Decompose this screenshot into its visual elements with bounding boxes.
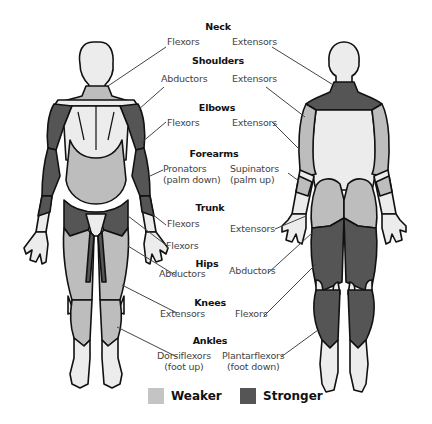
back-figure	[282, 42, 406, 392]
label-knees-front: Extensors	[160, 309, 205, 320]
heading-neck: Neck	[205, 21, 231, 32]
front-foot-right	[102, 338, 122, 388]
front-upperarm-right	[132, 148, 150, 196]
label-forearms-front: Pronators (palm down)	[163, 164, 221, 185]
back-thigh-right	[344, 218, 377, 290]
front-hand-left	[24, 232, 48, 264]
legend-weaker: Weaker	[148, 388, 222, 404]
label-elbows-front: Flexors	[167, 118, 199, 129]
heading-ankles: Ankles	[193, 335, 228, 346]
legend-stronger: Stronger	[240, 388, 323, 404]
back-hand-right	[382, 214, 406, 244]
heading-forearms: Forearms	[190, 148, 239, 159]
back-calf-right	[348, 290, 374, 348]
front-upperarm-left	[42, 148, 60, 196]
label-hips-back: Abductors	[229, 266, 275, 277]
legend-weaker-label: Weaker	[171, 389, 222, 403]
muscle-strength-diagram: Neck Flexors Extensors Shoulders Abducto…	[0, 0, 432, 424]
back-upperarm-right	[372, 104, 389, 176]
back-foot-left	[320, 340, 338, 392]
label-neck-back: Extensors	[232, 37, 277, 48]
label-hips-front: Abductors	[159, 269, 205, 280]
label-forearms-back: Supinators (palm up)	[230, 164, 279, 185]
weaker-swatch	[148, 388, 164, 404]
back-thigh-left	[311, 218, 344, 290]
front-foot-left	[70, 338, 90, 388]
front-figure	[24, 42, 168, 388]
stronger-swatch	[240, 388, 256, 404]
label-elbows-back: Extensors	[232, 118, 277, 129]
back-head	[329, 42, 359, 84]
back-calf-left	[314, 290, 340, 348]
label-ankles-front: Dorsiflexors (foot up)	[157, 351, 211, 372]
label-ankles-back: Plantarflexors (foot down)	[222, 351, 285, 372]
heading-shoulders: Shoulders	[192, 55, 244, 66]
label-shoulders-front: Abductors	[161, 74, 207, 85]
label-shoulders-back: Extensors	[232, 74, 277, 85]
back-foot-right	[350, 340, 368, 392]
back-neck-extensors	[306, 82, 382, 110]
heading-knees: Knees	[194, 297, 226, 308]
back-hand-left	[282, 214, 306, 244]
heading-trunk: Trunk	[196, 202, 225, 213]
label-trunk-front-1: Flexors	[167, 219, 199, 230]
back-torso	[312, 110, 376, 190]
label-trunk-front-2: Flexors	[166, 241, 198, 252]
label-knees-back: Flexors	[235, 309, 267, 320]
legend-stronger-label: Stronger	[263, 389, 323, 403]
heading-elbows: Elbows	[199, 102, 235, 113]
label-trunk-back: Extensors	[230, 224, 275, 235]
front-head	[80, 42, 114, 92]
label-neck-front: Flexors	[167, 37, 199, 48]
